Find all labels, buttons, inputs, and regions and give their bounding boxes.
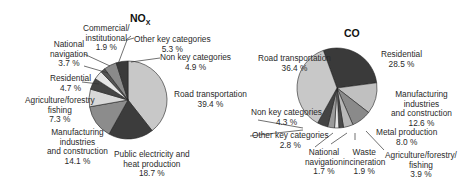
nox-label-manufacturing: Manufacturingindustriesand construction1… [47, 128, 108, 166]
co-label-road: Road transportation36.4 % [258, 54, 331, 73]
co-label-waste: Wasteincineration1.9 % [343, 148, 385, 177]
co-label-manufacturing: Manufacturingindustriesand construction1… [391, 90, 452, 128]
nox-label-public-electricity: Public electricity andheat production18.… [114, 150, 190, 179]
co-label-residential: Residential28.5 % [381, 50, 422, 69]
nox-label-agriculture: Agriculture/forestryfishing7.3 % [25, 96, 95, 125]
nox-label-non-key: Non key categories4.9 % [160, 53, 231, 72]
co-label-national-navigation: Nationalnavigation1.7 % [305, 148, 343, 177]
co-label-agriculture: Agriculture/forestry/fishing3.9 % [385, 151, 457, 180]
nox-label-road: Road transportation39.4 % [174, 90, 247, 109]
co-chart-title: CO [344, 27, 360, 39]
nox-label-residential: Residential4.7 % [50, 74, 91, 93]
nox-chart-title: NOX [130, 12, 150, 26]
nox-label-commercial: Commercial/institutional1.9 % [83, 24, 130, 53]
co-label-non-key: Non key categories4.3 % [251, 108, 322, 127]
nox-label-national-navigation: Nationalnavigation3.7 % [50, 40, 88, 69]
co-label-metal: Metal production8.0 % [376, 128, 437, 147]
